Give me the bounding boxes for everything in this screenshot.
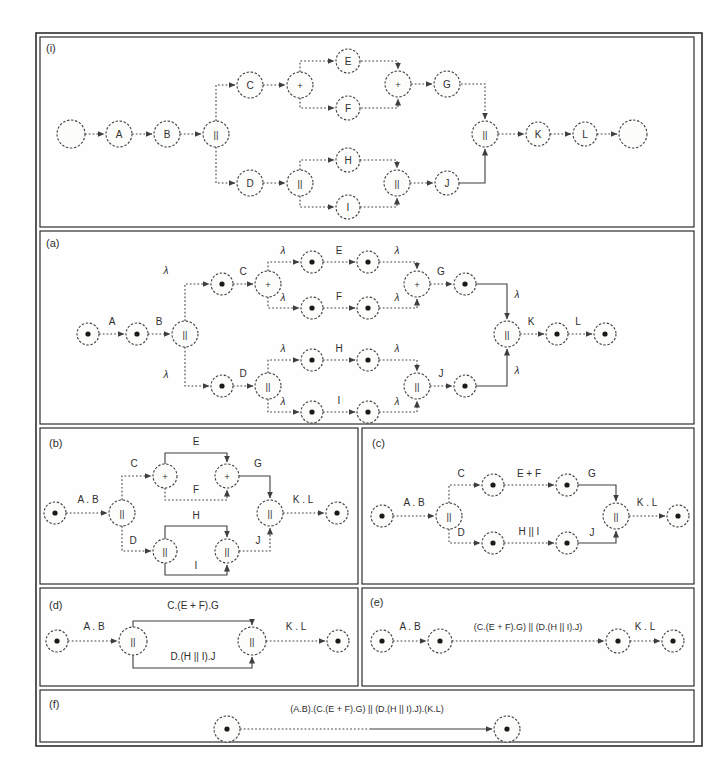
node-b-par-split: ||: [109, 500, 135, 526]
operator-symbol: ||: [415, 381, 420, 392]
state-token-dot: [219, 383, 224, 388]
node-a-s11: [301, 349, 323, 371]
node-b-par2-join: ||: [215, 539, 239, 563]
node-a-choice-join: +: [404, 271, 430, 297]
node-e-s0: [371, 630, 393, 652]
operator-symbol: +: [162, 471, 168, 482]
state-token-dot: [670, 638, 675, 643]
panel-a: (a)ABλCλEλλFλGλKLλDλHλλIλJλ||++||||||: [40, 231, 694, 424]
task-letter: B: [164, 129, 171, 140]
panel-a-label: (a): [46, 237, 59, 249]
process-diagram-svg: (i)AB||C+EF+GD||HI||J||KL(a)ABλCλEλλFλGλ…: [0, 0, 728, 782]
node-b-choice-split: +: [153, 464, 177, 488]
operator-symbol: +: [265, 279, 271, 290]
state-token-dot: [365, 409, 370, 414]
operator-symbol: ||: [120, 508, 125, 519]
operator-symbol: +: [224, 471, 230, 482]
edge-label-e-1: (C.(E + F).G) || (D.(H || I).J): [474, 622, 583, 632]
node-b-s1: [326, 502, 348, 524]
operator-symbol: ||: [163, 546, 168, 557]
node-c-s2: [556, 474, 578, 496]
edge-label-c-4: D: [457, 527, 464, 538]
node-a-s15: [454, 375, 476, 397]
edge-label-b-3: F: [193, 484, 199, 495]
edge-label-f-0: (A.B).(C.(E + F).G) || (D.(H || I).J).(K…: [290, 704, 444, 714]
edge-label-a-6: λ: [394, 245, 400, 256]
operator-symbol: +: [414, 279, 420, 290]
state-token-dot: [365, 357, 370, 362]
node-i-I: I: [336, 195, 360, 219]
panel-c-label: (c): [372, 437, 385, 449]
state-token-dot: [675, 513, 680, 518]
node-i-F: F: [336, 96, 360, 120]
state-token-dot: [462, 281, 467, 286]
node-i-end: [619, 120, 647, 148]
node-a-s7: [454, 273, 476, 295]
panel-f-frame: [40, 690, 694, 742]
node-a-s13: [301, 401, 323, 423]
node-i-par2-join: ||: [384, 170, 410, 196]
node-b-par2-split: ||: [153, 539, 177, 563]
state-token-dot: [309, 305, 314, 310]
operator-symbol: ||: [483, 129, 488, 140]
task-letter: L: [582, 129, 588, 140]
state-token-dot: [134, 331, 139, 336]
operator-symbol: ||: [505, 329, 510, 340]
node-a-s8: [546, 323, 568, 345]
edge-label-d-0: A . B: [83, 621, 104, 632]
node-b-choice-join: +: [215, 464, 239, 488]
node-c-s1: [482, 474, 504, 496]
node-i-E: E: [336, 49, 360, 73]
operator-symbol: ||: [268, 508, 273, 519]
node-i-C: C: [237, 72, 263, 98]
edge-label-a-13: L: [575, 316, 581, 327]
node-c-par-join: ||: [603, 503, 629, 529]
node-a-s14: [357, 401, 379, 423]
operator-symbol: ||: [225, 546, 230, 557]
node-c-s5: [667, 505, 689, 527]
task-letter: G: [443, 79, 451, 90]
state-token-dot: [490, 482, 495, 487]
edge-label-a-19: λ: [280, 396, 286, 407]
edge-label-c-0: A . B: [403, 497, 424, 508]
operator-symbol: +: [395, 79, 401, 90]
node-a-par2-join: ||: [404, 373, 430, 399]
state-token-dot: [335, 638, 340, 643]
node-i-par-split: ||: [203, 121, 229, 147]
node-a-s12: [357, 349, 379, 371]
task-letter: J: [445, 178, 450, 189]
node-f-s1: [494, 716, 520, 742]
edge-label-e-2: K . L: [635, 621, 656, 632]
state-token-dot: [219, 281, 224, 286]
state-token-dot: [334, 510, 339, 515]
state-token-dot: [554, 331, 559, 336]
state-token-dot: [365, 259, 370, 264]
node-a-par2-split: ||: [255, 373, 281, 399]
node-a-par-join: ||: [494, 321, 520, 347]
figure-page: (i)AB||C+EF+GD||HI||J||KL(a)ABλCλEλλFλGλ…: [0, 0, 728, 782]
node-i-B: B: [154, 121, 180, 147]
node-a-s2: [211, 273, 233, 295]
edge-label-a-11: λ: [514, 289, 520, 300]
panel-i-label: (i): [46, 42, 56, 54]
edge-label-b-8: J: [256, 535, 261, 546]
state-token-dot: [504, 726, 509, 731]
node-a-s9: [594, 323, 616, 345]
task-letter: I: [347, 202, 350, 213]
task-letter: C: [246, 80, 253, 91]
panel-d-label: (d): [49, 599, 62, 611]
node-i-J: J: [435, 171, 459, 195]
edge-label-a-1: B: [156, 316, 163, 327]
edge-label-b-1: C: [130, 458, 137, 469]
edge-label-c-6: J: [590, 527, 595, 538]
task-letter: A: [116, 129, 123, 140]
state-token-dot: [54, 638, 59, 643]
edge-label-a-17: H: [335, 343, 342, 354]
state-token-dot: [564, 540, 569, 545]
panel-b-label: (b): [49, 437, 62, 449]
node-e-s1: [428, 629, 452, 653]
state-token-dot: [379, 513, 384, 518]
node-i-L: L: [573, 122, 597, 146]
node-c-par-split: ||: [436, 503, 462, 529]
node-a-s1: [126, 323, 148, 345]
